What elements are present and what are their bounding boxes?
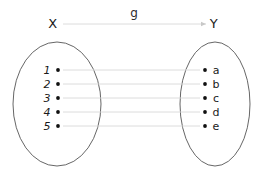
codomain-element-dot: [203, 124, 207, 128]
domain-element-dot: [56, 96, 60, 100]
map-arrow-group: [63, 22, 206, 26]
codomain-element-label: e: [213, 120, 220, 133]
codomain-element-dot: [203, 82, 207, 86]
codomain-element-label: d: [213, 106, 220, 119]
function-name-label: g: [130, 6, 138, 20]
domain-set-ellipse: [13, 42, 101, 166]
mapping-connectors: [63, 70, 200, 126]
codomain-element-label: a: [213, 64, 220, 77]
codomain-element-dot: [203, 110, 207, 114]
domain-element-label: 1: [44, 64, 51, 77]
domain-element-dot: [56, 110, 60, 114]
codomain-element-label: b: [213, 78, 220, 91]
domain-element-label: 3: [44, 92, 51, 105]
domain-element-label: 5: [44, 120, 51, 133]
diagram-canvas: X Y g 12345abcde: [0, 0, 263, 176]
mapping-diagram-svg: [0, 0, 263, 176]
domain-element-label: 2: [44, 78, 51, 91]
domain-element-dot: [56, 68, 60, 72]
codomain-set-label: Y: [210, 16, 218, 31]
codomain-element-label: c: [213, 92, 219, 105]
codomain-element-dot: [203, 68, 207, 72]
codomain-element-dot: [203, 96, 207, 100]
domain-element-label: 4: [44, 106, 51, 119]
domain-set-label: X: [48, 16, 57, 31]
domain-element-dot: [56, 82, 60, 86]
domain-element-dot: [56, 124, 60, 128]
map-arrow-head-icon: [201, 22, 206, 26]
